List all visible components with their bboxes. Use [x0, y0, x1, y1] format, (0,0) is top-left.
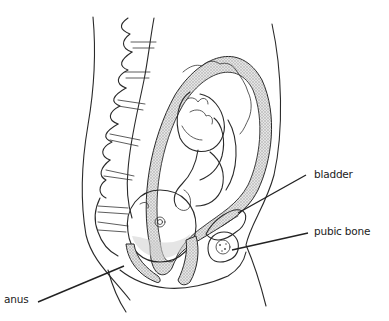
- anus-leader: [38, 266, 124, 302]
- pubic-bone-leader: [232, 233, 308, 250]
- label-bladder: bladder: [314, 168, 353, 180]
- pregnancy-cross-section-illustration: [0, 0, 389, 321]
- label-anus: anus: [4, 293, 28, 305]
- pubic-bone-organ: [208, 232, 238, 262]
- label-pubic-bone: pubic bone: [314, 225, 370, 237]
